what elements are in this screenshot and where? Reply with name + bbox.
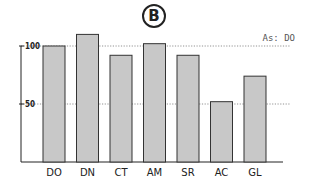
bar-gl <box>244 76 266 162</box>
bar-sr <box>177 55 199 162</box>
x-tick-label: GL <box>248 167 262 178</box>
bar-dn <box>77 34 99 162</box>
x-tick-label: DO <box>46 167 62 178</box>
bar-ct <box>110 55 132 162</box>
y-tick-label: 100 <box>25 42 40 51</box>
x-tick-label: SR <box>181 167 194 178</box>
x-tick-label: AC <box>215 167 229 178</box>
x-tick-label: CT <box>114 167 128 178</box>
y-tick-label: 50 <box>25 100 35 109</box>
reference-line-label: As: DO <box>262 33 295 43</box>
bar-am <box>144 44 166 162</box>
x-tick-label: AM <box>147 167 162 178</box>
bar-ac <box>211 102 233 162</box>
panel-label: B <box>142 4 166 28</box>
x-tick-label: DN <box>80 167 95 178</box>
bar-do <box>43 46 65 162</box>
